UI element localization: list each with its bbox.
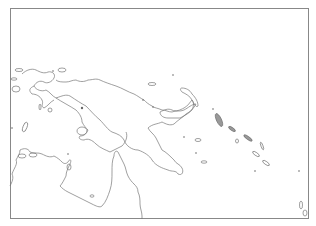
islet [152,106,154,108]
northern-territory-coastline [10,149,118,207]
map-canvas[interactable] [0,0,316,226]
island [90,195,94,197]
island [29,153,37,157]
islet [142,99,144,101]
islet [52,70,54,72]
island [303,210,307,216]
islet [212,108,214,110]
island [195,139,201,142]
island [12,86,20,92]
island [148,83,156,86]
islet [11,127,13,129]
south-new-guinea-coastline [56,98,127,152]
islet [183,136,185,138]
islet [298,170,300,172]
island [21,122,28,133]
island [11,78,17,80]
island [201,161,207,163]
island [243,134,253,142]
new-guinea-coastline [22,69,196,174]
island [58,68,66,72]
island [236,139,239,143]
islet [67,153,69,155]
island [228,125,236,132]
island [18,154,26,158]
islet [195,152,197,154]
islet [254,170,256,172]
island [300,201,303,209]
cape-york-coastline [118,152,142,219]
island [67,164,71,170]
island [214,113,224,128]
island [252,150,260,157]
map-frame [11,9,309,219]
island [77,127,87,135]
island [15,69,23,72]
islet [81,107,83,109]
vogelkop-coastline [30,86,54,108]
island [260,142,265,150]
island [39,104,41,110]
island [48,108,52,112]
new-britain-coastline [160,100,194,118]
island [262,159,270,166]
islet [172,74,174,76]
